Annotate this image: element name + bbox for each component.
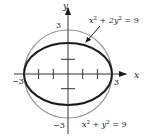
y-axis-label: y — [62, 1, 69, 11]
y-neg-3-label: −3 — [53, 121, 65, 130]
circle-equation-label: x2 + y2 = 9 — [82, 119, 127, 129]
ellipse-circle-diagram: y x −3 3 3 −3 x2 + 2y2 = 9 x2 + y2 = 9 — [0, 0, 149, 139]
x-pos-3-label: 3 — [114, 78, 119, 87]
ellipse-label-leader-arrow — [86, 26, 100, 42]
x-axis-label: x — [134, 70, 139, 80]
x-neg-3-label: −3 — [12, 77, 24, 86]
ellipse-equation-label: x2 + 2y2 = 9 — [89, 15, 139, 25]
y-pos-3-label: 3 — [56, 21, 61, 30]
